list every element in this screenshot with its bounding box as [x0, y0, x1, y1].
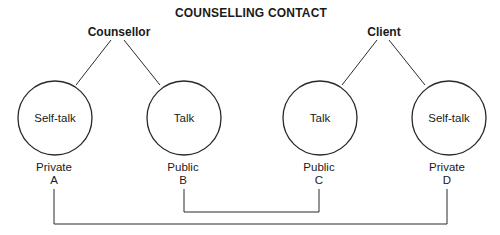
node-counsellor-self-talk: Self-talk — [18, 81, 92, 155]
label-b: Public B — [167, 161, 199, 186]
type-label: Private — [36, 161, 72, 173]
branch-line-client-self-talk — [389, 40, 425, 85]
letter-label: C — [315, 174, 323, 186]
letter-label: B — [179, 174, 187, 186]
letter-label: D — [443, 174, 451, 186]
branch-line-counsellor-self-talk — [76, 40, 111, 85]
node-client-talk: Talk — [283, 81, 357, 155]
node-label: Self-talk — [428, 112, 470, 124]
label-c: Public C — [303, 161, 335, 186]
type-label: Public — [303, 161, 335, 173]
branch-line-client-talk — [342, 40, 377, 85]
counsellor-label: Counsellor — [88, 25, 151, 39]
type-label: Private — [429, 161, 465, 173]
client-label: Client — [367, 25, 400, 39]
branch-line-counsellor-talk — [124, 40, 160, 85]
diagram-title: COUNSELLING CONTACT — [175, 6, 328, 20]
node-counsellor-talk: Talk — [147, 81, 221, 155]
connector-b-c — [184, 189, 319, 212]
type-label: Public — [167, 161, 199, 173]
label-a: Private A — [36, 161, 72, 186]
node-label: Talk — [310, 112, 331, 124]
counselling-contact-diagram: COUNSELLING CONTACT Counsellor Client Se… — [0, 0, 500, 235]
node-label: Talk — [174, 112, 195, 124]
counsellor-branches — [76, 40, 160, 85]
letter-label: A — [50, 174, 58, 186]
client-branches — [342, 40, 425, 85]
label-d: Private D — [429, 161, 465, 186]
node-client-self-talk: Self-talk — [412, 81, 486, 155]
node-label: Self-talk — [34, 112, 76, 124]
connector-a-d — [54, 189, 447, 224]
